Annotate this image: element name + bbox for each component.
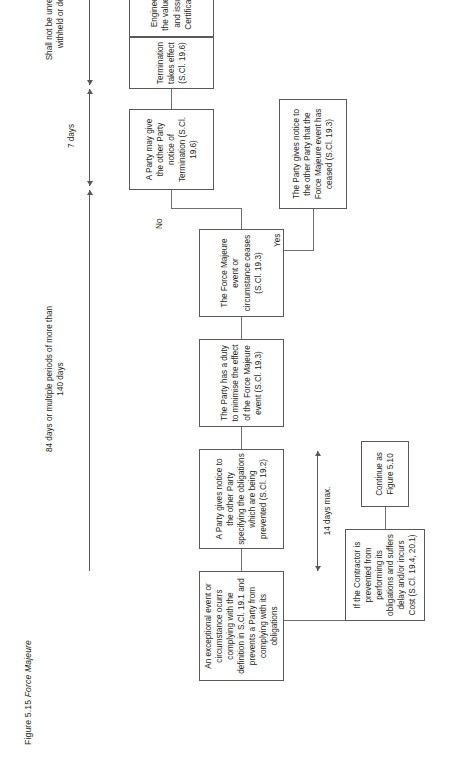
node-label: The Party gives notice to the other Part… — [290, 103, 334, 205]
node-label: A Party may give the other Party notice … — [143, 113, 198, 186]
connector-n9-n10 — [385, 507, 386, 529]
flowchart-rotated-canvas: An exceptional event or circumstance ocu… — [27, 13, 443, 759]
connector-n1-n2 — [241, 549, 242, 571]
connector-n4-no — [241, 209, 242, 229]
dimension-rule-14-days — [317, 451, 318, 571]
dimension-label-not-withheld: Shall not be unreasonably withheld or de… — [45, 0, 66, 69]
node-label: A Party gives notice to the other Party … — [213, 453, 268, 545]
node-event-ceases: The Force Majeure event or circumstance … — [199, 229, 284, 317]
connector-n6-n7 — [171, 89, 172, 109]
branch-label-yes: Yes — [273, 234, 283, 247]
connector-n2-n3 — [241, 427, 242, 449]
node-exceptional-event: An exceptional event or circumstance ocu… — [199, 571, 284, 681]
node-label: Engineer determines the value of work do… — [149, 0, 193, 33]
dimension-label-84-days: 84 days or multiple periods of more than… — [45, 299, 66, 459]
node-engineer-determines: Engineer determines the value of work do… — [129, 0, 214, 37]
node-label: The Force Majeure event or circumstance … — [219, 233, 263, 313]
node-notice-of-termination: A Party may give the other Party notice … — [129, 109, 214, 190]
node-contractor-prevented: If the Contractor is prevented from perf… — [345, 529, 425, 621]
flowchart: An exceptional event or circumstance ocu… — [27, 13, 443, 759]
node-notice-event-ceased: The Party gives notice to the other Part… — [279, 99, 347, 209]
dimension-rule-7-days — [89, 89, 90, 186]
node-termination-takes-effect: Termination takes effect (S.Cl. 19.6) — [129, 37, 214, 89]
node-label: The Party has a duty to minimise the eff… — [219, 343, 263, 423]
node-continue-as-figure: Continue as Figure 5.10 — [361, 441, 409, 507]
dimension-label-7-days: 7 days — [67, 101, 78, 171]
connector-no-riser — [171, 208, 242, 209]
connector-no-to-n6 — [171, 190, 172, 209]
dimension-label-14-days: 14 days max. — [323, 463, 334, 559]
branch-label-no: No — [155, 219, 165, 229]
node-label: An exceptional event or circumstance ocu… — [202, 575, 280, 677]
dimension-rule-84-days — [89, 190, 90, 571]
node-label: Termination takes effect (S.Cl. 19.6) — [154, 41, 187, 85]
dimension-rule-not-withheld — [89, 0, 90, 85]
node-duty-to-minimise: The Party has a duty to minimise the eff… — [199, 339, 284, 427]
node-party-gives-notice: A Party gives notice to the other Party … — [199, 449, 284, 549]
connector-n3-n4 — [241, 317, 242, 339]
node-label: Continue as Figure 5.10 — [373, 445, 395, 503]
connector-yes-to-n5 — [313, 209, 314, 251]
node-label: If the Contractor is prevented from perf… — [351, 533, 418, 617]
